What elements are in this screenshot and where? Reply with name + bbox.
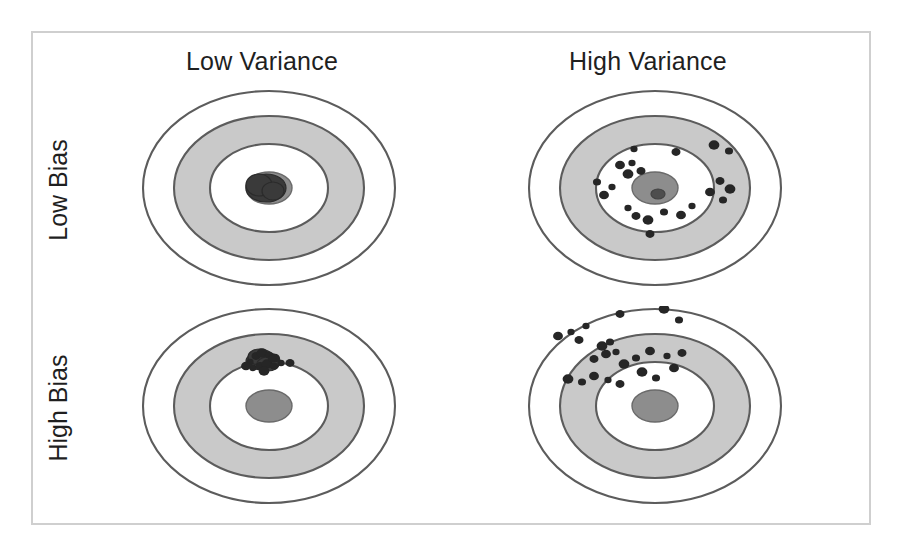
shot-point [601, 350, 611, 359]
shot-point [606, 338, 614, 345]
shot-point [270, 362, 278, 369]
target-low-bias-low-variance [138, 88, 400, 298]
shot-point [675, 316, 683, 323]
shot-point [688, 203, 695, 209]
shot-point [645, 347, 655, 356]
shot-point [637, 167, 646, 175]
shot-point [676, 211, 686, 220]
shot-point [616, 380, 625, 388]
target-high-bias-low-variance [138, 306, 400, 516]
shot-point [608, 184, 615, 190]
shot-point [567, 329, 574, 335]
shot-point [597, 341, 608, 351]
shot-point [599, 191, 609, 200]
shot-point [604, 377, 611, 383]
shot-point [616, 310, 625, 318]
shot-point [709, 140, 720, 150]
shot-point [628, 160, 635, 166]
shot-point [241, 362, 251, 371]
shot-point [593, 178, 601, 185]
target-high-bias-high-variance [524, 306, 786, 516]
shot-point [678, 349, 687, 357]
shot-point [575, 336, 584, 344]
shot-point [589, 372, 599, 381]
bullseye-center [632, 172, 678, 204]
shot-point [623, 169, 634, 179]
shot-point [663, 353, 670, 359]
shot-point [632, 354, 640, 361]
shot-point [268, 355, 276, 362]
shot-point [630, 146, 637, 152]
shot-point [643, 215, 654, 225]
shot-point [286, 359, 295, 367]
shot-point [672, 148, 681, 156]
shot-point [624, 205, 631, 211]
shot-point [652, 374, 660, 381]
shot-cluster [246, 174, 286, 202]
shot-point [582, 323, 589, 329]
target-low-bias-high-variance [524, 88, 786, 298]
shot-point [725, 184, 736, 194]
shot-point [705, 188, 715, 197]
shot-point [669, 364, 679, 373]
bullseye-center [632, 390, 678, 422]
shot-point [612, 349, 619, 355]
bullseye-center [246, 390, 292, 422]
shot-point [716, 177, 725, 185]
shot-point [719, 196, 727, 203]
shot-point [590, 355, 599, 363]
shot-point [637, 367, 648, 377]
shot-point [660, 208, 668, 215]
shot-point [553, 332, 563, 341]
shot-point [277, 360, 284, 366]
shot-point [615, 161, 625, 170]
shot-point [619, 359, 630, 369]
shot-point [259, 366, 270, 376]
shot-point [725, 147, 733, 154]
shot-point [578, 378, 586, 385]
shot-point [646, 230, 655, 238]
shot-point [563, 374, 574, 384]
shot-point [632, 212, 641, 220]
column-header-high-variance: High Variance [498, 47, 798, 76]
bias-variance-figure: Low Variance High Variance Low Bias High… [0, 0, 901, 556]
